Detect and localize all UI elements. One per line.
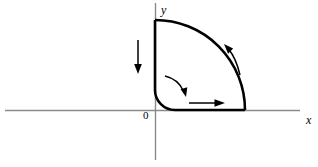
- inner-arc-clockwise-arrow: [165, 76, 187, 97]
- y-axis-label: y: [160, 3, 167, 17]
- origin-label: 0: [143, 109, 149, 121]
- outer-arc: [155, 20, 245, 110]
- outer-arc-counterclockwise-arrow: [224, 44, 240, 75]
- inner-arc: [155, 90, 175, 110]
- quarter-annulus-diagram: x y 0: [0, 0, 318, 167]
- figure-container: x y 0: [0, 0, 318, 167]
- bottom-rightward-arrow: [189, 99, 225, 106]
- left-downward-arrow: [134, 40, 142, 74]
- x-axis-label: x: [305, 113, 312, 127]
